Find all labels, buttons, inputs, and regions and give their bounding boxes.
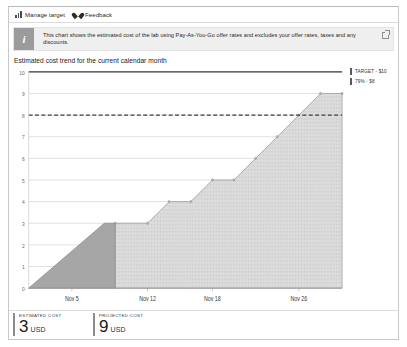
svg-text:10: 10 [19,69,24,76]
bar-chart-icon [15,11,22,18]
chart-card: Estimated cost trend for the current cal… [13,54,394,310]
metric-projected-cost: PROJECTED COST 9 USD [93,313,173,336]
command-bar: Manage target Feedback [9,7,398,23]
svg-text:1: 1 [22,264,25,271]
legend-label-target: TARGET - $10 [355,69,387,74]
svg-text:3: 3 [22,220,25,227]
info-banner: i This chart shows the estimated cost of… [13,27,394,51]
cost-trend-panel: Manage target Feedback i This chart show… [8,6,399,340]
chart-legend: TARGET - $10 79% - $8 [346,67,394,310]
chart-body: 012345678910Nov 5Nov 12Nov 18Nov 26 TARG… [13,67,394,310]
svg-text:0: 0 [22,285,25,292]
svg-text:6: 6 [22,156,25,163]
svg-text:2: 2 [22,242,25,249]
svg-text:9: 9 [22,91,25,98]
svg-text:4: 4 [22,199,25,206]
metric-number-projected: 9 [99,318,108,336]
legend-label-threshold: 79% - $8 [355,79,375,84]
svg-text:Nov 18: Nov 18 [204,296,221,303]
svg-text:Nov 12: Nov 12 [139,296,156,303]
cost-trend-plot[interactable]: 012345678910Nov 5Nov 12Nov 18Nov 26 [13,67,346,310]
manage-target-button[interactable]: Manage target [13,8,72,21]
metric-value-estimated: 3 USD [19,318,93,336]
svg-text:Nov 5: Nov 5 [65,296,79,303]
legend-swatch-target [350,68,352,75]
chart-title: Estimated cost trend for the current cal… [13,54,394,67]
svg-text:Nov 26: Nov 26 [290,296,307,303]
feedback-label: Feedback [85,12,112,18]
svg-text:5: 5 [22,177,25,184]
metric-estimated-cost: ESTIMATED COST 3 USD [13,313,93,336]
legend-item-threshold[interactable]: 79% - $8 [346,78,394,85]
metric-value-projected: 9 USD [99,318,173,336]
legend-swatch-threshold [350,78,352,85]
info-icon: i [14,28,34,50]
plot-area[interactable]: 012345678910Nov 5Nov 12Nov 18Nov 26 [13,67,346,310]
metric-number-estimated: 3 [19,318,28,336]
svg-text:8: 8 [22,112,25,119]
heart-icon [74,11,82,18]
manage-target-label: Manage target [25,12,65,18]
metric-unit-estimated: USD [30,326,45,333]
svg-text:7: 7 [22,134,25,141]
open-in-new-window-icon[interactable] [382,31,389,38]
info-banner-text: This chart shows the estimated cost of t… [34,32,393,45]
legend-item-target[interactable]: TARGET - $10 [346,68,394,75]
info-banner-container: i This chart shows the estimated cost of… [9,23,398,53]
metric-unit-projected: USD [110,326,125,333]
feedback-button[interactable]: Feedback [72,8,119,21]
metrics-row: ESTIMATED COST 3 USD PROJECTED COST 9 US… [9,310,398,339]
